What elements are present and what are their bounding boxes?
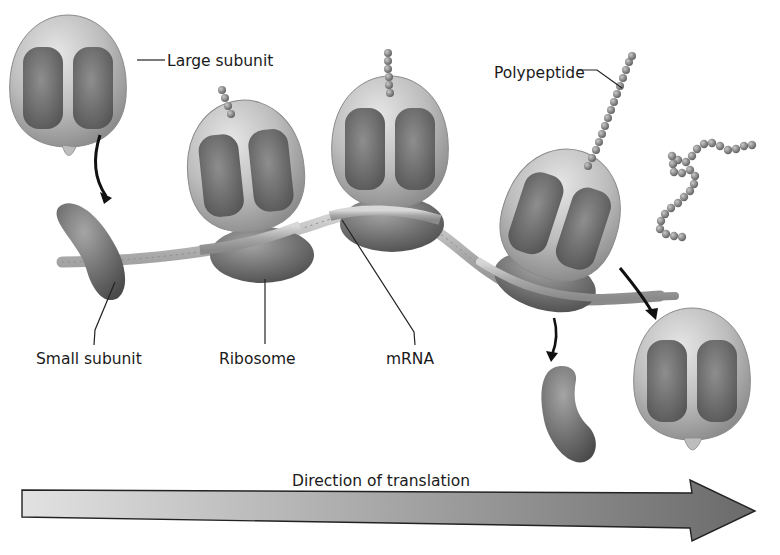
mrna-label: mRNA [386,350,434,368]
small-subunit-label: Small subunit [36,350,142,368]
polypeptide-label: Polypeptide [494,64,585,82]
assembly-arrow-icon [95,135,106,196]
small-subunit-left [57,203,126,300]
direction-label: Direction of translation [292,472,470,490]
release-arrow-small-icon [552,318,556,355]
free-large-subunit-top [10,15,127,156]
small-subunit-released [541,366,596,463]
release-arrow-large-icon [620,268,652,312]
released-polypeptide [656,139,756,241]
polyribosome-diagram: Large subunit [0,0,780,555]
large-subunit-label: Large subunit [167,52,273,70]
ribosome-label: Ribosome [219,350,296,368]
free-large-subunit-released [634,308,751,450]
